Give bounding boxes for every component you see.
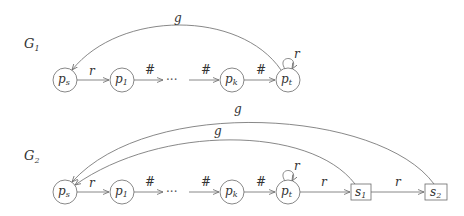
- edge-g-s1-ps: [75, 140, 355, 185]
- node-pt: pt: [276, 68, 300, 92]
- edge-label-hash: #: [256, 63, 266, 77]
- node-s1: s1: [351, 184, 371, 200]
- node-pk: pk: [220, 180, 244, 204]
- ellipsis: ···: [166, 185, 177, 199]
- graph-g1: G1 g r # ··· # # r ps p1 pk: [24, 11, 301, 92]
- diagram-canvas: G1 g r # ··· # # r ps p1 pk: [0, 0, 464, 216]
- node-pk: pk: [220, 68, 244, 92]
- edge-label-hash: #: [201, 175, 211, 189]
- graph-label-g2: G2: [24, 148, 39, 165]
- node-ps: ps: [53, 180, 77, 204]
- edge-pt-selfloop: [283, 171, 294, 182]
- edge-label-r: r: [395, 175, 402, 189]
- edge-label-r: r: [294, 159, 301, 173]
- edge-label-hash: #: [201, 63, 211, 77]
- node-p1: p1: [110, 180, 134, 204]
- node-pt: pt: [276, 180, 300, 204]
- node-s2: s2: [425, 184, 447, 200]
- edge-label-r: r: [294, 47, 301, 61]
- ellipsis: ···: [166, 73, 177, 87]
- edge-label-r: r: [89, 176, 96, 190]
- edge-label-hash: #: [145, 63, 155, 77]
- edge-pt-selfloop: [283, 59, 294, 70]
- node-p1: p1: [110, 68, 134, 92]
- edge-label-r: r: [89, 64, 96, 78]
- graph-label-g1: G1: [24, 36, 39, 53]
- edge-label-g: g: [214, 124, 222, 138]
- edge-label-g: g: [174, 11, 182, 25]
- edge-label-hash: #: [256, 175, 266, 189]
- graph-g2: G2 g g r # ··· # # r r r ps p1: [24, 102, 447, 204]
- edge-g-pt-ps: [72, 25, 281, 70]
- edge-label-hash: #: [145, 175, 155, 189]
- edge-label-g: g: [234, 102, 242, 116]
- edge-g-s2-ps: [72, 122, 434, 184]
- edge-label-r: r: [321, 175, 328, 189]
- node-ps: ps: [53, 68, 77, 92]
